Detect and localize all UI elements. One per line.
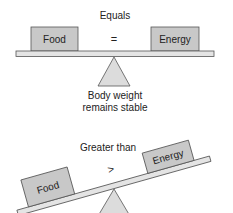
tilted-scale: Greater than Food Energy > xyxy=(9,129,211,213)
food-label: Food xyxy=(43,34,66,45)
tilted-fulcrum xyxy=(98,189,130,213)
energy-label: Energy xyxy=(159,34,191,45)
balanced-scale: Equals Food = Energy Body weight remains… xyxy=(16,10,214,113)
caption-line-2: remains stable xyxy=(82,102,147,113)
balanced-fulcrum xyxy=(98,57,130,86)
balanced-beam xyxy=(16,51,214,57)
energy-balance-diagram: Equals Food = Energy Body weight remains… xyxy=(0,0,233,213)
caption-line-1: Body weight xyxy=(88,90,143,101)
tilted-title: Greater than xyxy=(80,142,136,153)
equals-operator: = xyxy=(111,33,117,45)
greater-than-operator: > xyxy=(106,162,115,175)
balanced-title: Equals xyxy=(100,10,131,21)
